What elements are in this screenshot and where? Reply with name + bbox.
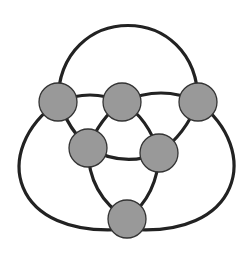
graph-diagram xyxy=(0,0,251,255)
graph-svg xyxy=(0,0,251,255)
node-n6 xyxy=(108,200,146,238)
edges-group xyxy=(19,26,234,230)
node-n5 xyxy=(140,134,178,172)
node-n4 xyxy=(69,129,107,167)
node-n1 xyxy=(39,83,77,121)
node-n2 xyxy=(103,83,141,121)
node-n3 xyxy=(179,83,217,121)
